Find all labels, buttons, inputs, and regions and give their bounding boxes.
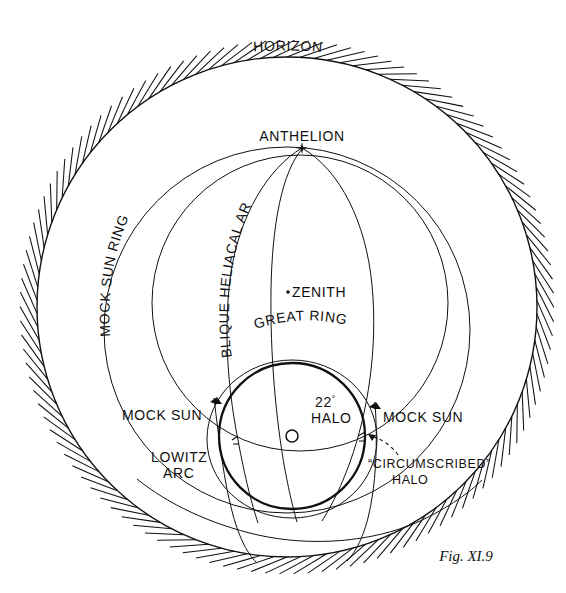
- horizon-hatch-tick: [81, 477, 117, 491]
- horizon-hatch-tick: [377, 529, 402, 558]
- horizon-hatch-tick: [183, 548, 221, 553]
- label-anthelion: ANTHELION: [259, 128, 345, 144]
- zenith-marker: [286, 290, 290, 294]
- inner-meridian-arc: [271, 149, 302, 522]
- horizon-hatch-tick: [39, 209, 45, 247]
- horizon-hatch-tick: [50, 183, 52, 222]
- horizon-hatch-tick: [364, 535, 391, 563]
- horizon-hatch-tick: [145, 533, 184, 535]
- horizon-hatch-tick: [522, 392, 524, 431]
- sun-marker: [286, 430, 298, 442]
- label-lowitz-arc-line1: LOWITZ: [151, 449, 207, 465]
- mock-sun-right-marker: [369, 402, 381, 409]
- label-circumscribed-halo-line1: “CIRCUMSCRIBED”: [368, 457, 491, 471]
- horizon-hatch-tick: [196, 551, 234, 558]
- horizon-hatch-tick: [184, 51, 211, 79]
- halo-diagram-figure: HORIZON ANTHELION MOCK SUN RING OBLIQUE …: [0, 0, 566, 593]
- horizon-hatch-tick: [22, 278, 38, 314]
- horizon-hatch-tick: [537, 314, 551, 350]
- horizon-hatch-tick: [526, 379, 530, 418]
- label-halo-22-value: 22°: [315, 394, 336, 410]
- horizon-hatch-tick: [440, 491, 457, 526]
- horizon-hatch-tick: [26, 250, 38, 287]
- horizon-hatch-tick: [353, 61, 391, 66]
- label-zenith: ZENITH: [292, 284, 346, 300]
- label-mock-sun-left: MOCK SUN: [122, 407, 202, 423]
- figure-caption: Fig. XI.9: [438, 548, 493, 564]
- horizon-hatch-tick: [251, 557, 287, 572]
- pointer-ticks: [232, 432, 366, 444]
- horizon-hatch-tick: [537, 300, 553, 336]
- horizon-hatch-tick: [57, 171, 58, 210]
- label-horizon: HORIZON: [253, 37, 324, 54]
- horizon-hatch-tick: [390, 79, 429, 81]
- horizon-hatch-tick: [340, 56, 378, 63]
- horizon-hatch-tick: [447, 115, 484, 127]
- halo-diagram-svg: HORIZON ANTHELION MOCK SUN RING OBLIQUE …: [0, 0, 566, 593]
- label-lowitz-arc-line2: ARC: [163, 465, 194, 481]
- horizon-hatch-tick: [33, 390, 62, 416]
- horizon-hatch-tick: [117, 88, 134, 123]
- horizon-hatch-tick: [172, 56, 197, 85]
- horizon-hatch-tick: [536, 327, 548, 364]
- label-halo-22-word: HALO: [311, 410, 352, 426]
- mock-sun-left-marker: [210, 397, 222, 404]
- circumscribed-halo-leader: [371, 436, 398, 455]
- label-great-ring: GREAT RING: [252, 307, 349, 331]
- horizon-hatch-tick: [99, 106, 112, 143]
- horizon-hatch-tick: [378, 74, 417, 75]
- horizon-hatch-tick: [170, 544, 209, 547]
- label-oblique-heliacal-arc: OBLIQUE HELIACAL ARC: [0, 0, 254, 359]
- horizon-hatch-tick: [72, 466, 108, 482]
- halo-22-number: 22: [315, 394, 332, 410]
- horizon-hatch-tick: [512, 198, 541, 224]
- halo-22-degree-sign: °: [332, 394, 336, 404]
- horizon-hatch-tick: [457, 123, 493, 137]
- label-mock-sun-ring: MOCK SUN RING: [96, 212, 131, 337]
- horizon-hatch-tick: [462, 472, 475, 509]
- horizon-hatch-tick: [108, 97, 123, 133]
- horizon-hatch-tick: [517, 404, 518, 443]
- horizon-hatch-tick: [366, 67, 405, 70]
- horizon-hatch-tick: [38, 404, 68, 428]
- label-circumscribed-halo-line2: HALO: [392, 473, 428, 487]
- horizon-hatch-tick: [44, 196, 48, 235]
- horizon-hatch-tick: [90, 488, 127, 500]
- horizon-hatch-tick: [506, 186, 536, 210]
- zenith-meridian-arc: [302, 148, 374, 521]
- horizon-hatch-tick: [530, 366, 536, 404]
- label-mock-sun-right: MOCK SUN: [383, 409, 463, 425]
- horizon-hatch-tick: [23, 264, 37, 300]
- horizon-hatch-tick: [157, 540, 196, 541]
- horizon-hatch-tick: [466, 133, 502, 149]
- horizon-hatch-tick: [237, 557, 274, 570]
